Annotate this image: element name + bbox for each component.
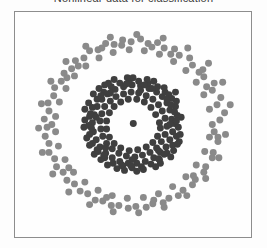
scatter-point	[38, 100, 45, 107]
chart-figure: Nonlinear data for classification	[0, 0, 267, 248]
scatter-point	[126, 147, 133, 154]
scatter-point	[161, 204, 168, 211]
scatter-point	[42, 133, 49, 140]
scatter-point	[162, 131, 169, 138]
scatter-point	[141, 47, 148, 54]
scatter-point	[167, 51, 174, 58]
scatter-point	[63, 74, 70, 81]
scatter-point	[150, 78, 157, 85]
scatter-point	[214, 101, 221, 108]
scatter-point	[94, 146, 101, 153]
scatter-point	[129, 156, 136, 163]
scatter-point	[95, 187, 102, 194]
scatter-point	[161, 45, 168, 52]
scatter-point	[182, 67, 189, 74]
scatter-point	[39, 149, 46, 156]
scatter-point	[71, 72, 78, 79]
scatter-point	[45, 99, 52, 106]
scatter-point	[222, 131, 229, 138]
scatter-point	[215, 154, 222, 161]
scatter-plot-canvas	[15, 12, 251, 237]
plot-area	[14, 11, 252, 238]
scatter-point	[82, 43, 89, 50]
scatter-point	[55, 143, 62, 150]
scatter-point	[200, 169, 207, 176]
scatter-point	[84, 190, 91, 197]
scatter-point	[175, 192, 182, 199]
scatter-point	[203, 83, 210, 90]
scatter-point	[51, 84, 58, 91]
scatter-point	[106, 134, 113, 141]
scatter-point	[108, 202, 115, 209]
scatter-point	[143, 144, 150, 151]
scatter-point	[63, 85, 70, 92]
scatter-point	[103, 117, 110, 124]
scatter-point	[107, 34, 114, 41]
scatter-point	[63, 177, 70, 184]
scatter-point	[149, 96, 156, 103]
scatter-point	[227, 101, 234, 108]
scatter-point	[120, 90, 127, 97]
scatter-point	[152, 111, 159, 118]
scatter-point	[81, 117, 88, 124]
scatter-point	[92, 197, 99, 204]
scatter-point	[152, 163, 159, 170]
scatter-point	[68, 65, 75, 72]
scatter-point	[166, 121, 173, 128]
scatter-point	[186, 54, 193, 61]
scatter-point	[134, 146, 141, 153]
scatter-point	[63, 58, 70, 65]
scatter-point	[157, 125, 164, 132]
scatter-point	[147, 104, 154, 111]
scatter-point	[135, 209, 142, 216]
scatter-point	[128, 89, 135, 96]
scatter-point	[221, 109, 228, 116]
scatter-point	[163, 144, 170, 151]
scatter-point	[211, 80, 218, 87]
scatter-point	[170, 58, 177, 65]
scatter-point	[65, 189, 72, 196]
scatter-point	[143, 204, 150, 211]
scatter-point	[209, 121, 216, 128]
scatter-point	[81, 179, 88, 186]
scatter-point	[140, 194, 147, 201]
scatter-point	[46, 149, 53, 156]
scatter-point	[41, 116, 48, 123]
scatter-point	[65, 164, 72, 171]
scatter-point	[200, 91, 207, 98]
scatter-point	[117, 144, 124, 151]
scatter-point	[206, 106, 213, 113]
scatter-point	[86, 142, 93, 149]
scatter-point	[102, 144, 109, 151]
scatter-point	[183, 192, 190, 199]
scatter-point	[90, 90, 97, 97]
scatter-point	[141, 99, 148, 106]
scatter-point	[118, 162, 125, 169]
scatter-point	[115, 202, 122, 209]
scatter-point	[82, 63, 89, 70]
scatter-point	[35, 125, 42, 132]
series-inner-class	[80, 74, 184, 175]
scatter-point	[155, 155, 162, 162]
scatter-point	[171, 108, 178, 115]
scatter-point	[217, 94, 224, 101]
scatter-point	[106, 109, 113, 116]
scatter-point	[214, 138, 221, 145]
scatter-point	[164, 96, 171, 103]
scatter-point	[101, 103, 108, 110]
scatter-point	[103, 194, 110, 201]
scatter-point	[110, 208, 117, 215]
scatter-point	[75, 63, 82, 70]
scatter-point	[137, 87, 144, 94]
scatter-point	[170, 147, 177, 154]
scatter-point	[80, 54, 87, 61]
scatter-point	[56, 99, 63, 106]
scatter-point	[126, 46, 133, 53]
scatter-point	[97, 92, 104, 99]
scatter-point	[111, 140, 118, 147]
scatter-point	[161, 84, 168, 91]
scatter-point	[155, 190, 162, 197]
chart-title: Nonlinear data for classification	[0, 0, 267, 4]
scatter-point	[176, 52, 183, 59]
scatter-point	[154, 39, 161, 46]
